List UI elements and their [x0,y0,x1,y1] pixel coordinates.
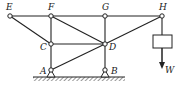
member-fd [51,16,105,44]
truss-nodes [8,14,164,72]
label-f: F [47,2,55,12]
node-f [49,14,53,18]
node-d [103,42,107,46]
node-e [8,14,12,18]
label-a: A [39,66,47,76]
label-h: H [158,2,167,12]
ground [33,77,125,81]
member-ec [10,16,51,44]
member-ad [51,44,105,70]
load-assembly: W [153,16,175,75]
truss-diagram: W E F G H C D A B [0,0,180,95]
load-block [153,35,172,48]
label-c: C [40,42,47,52]
truss-members [10,16,162,70]
label-b: B [110,66,118,76]
node-h [160,14,164,18]
node-c [49,42,53,46]
node-b [103,68,107,72]
label-d: D [108,42,116,52]
load-label: W [165,65,175,75]
node-a [49,68,53,72]
node-g [103,14,107,18]
label-g: G [102,2,109,12]
label-e: E [5,2,13,12]
